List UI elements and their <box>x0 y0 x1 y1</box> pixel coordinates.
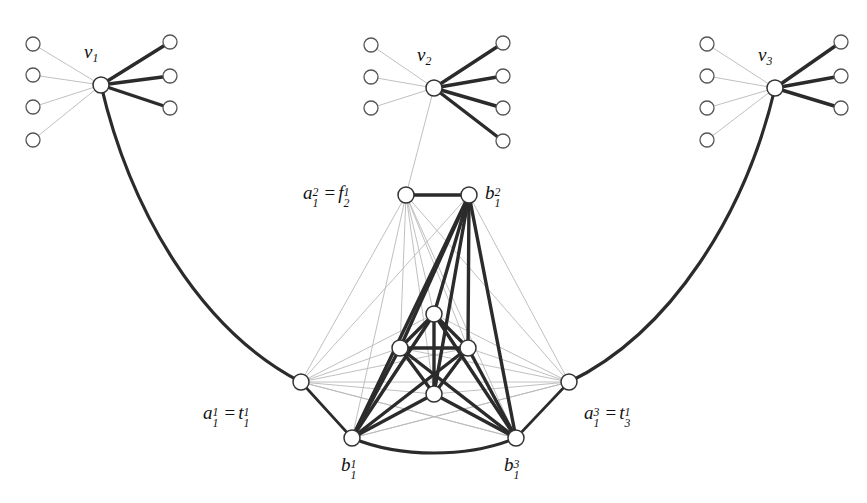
leaf-node[interactable] <box>163 101 177 115</box>
leaf-node[interactable] <box>26 100 40 114</box>
star-edge-light <box>707 88 775 108</box>
star-edge-dark <box>775 88 841 108</box>
arc-v1-a11 <box>101 85 301 382</box>
figure-root: v1 v2 v3 a21=f12 b21 a11=t11 b11 a31=t13… <box>0 0 867 503</box>
edge-v2-a12 <box>406 88 434 195</box>
node-a13[interactable] <box>561 374 577 390</box>
leaf-node[interactable] <box>700 101 714 115</box>
leaf-node[interactable] <box>834 69 848 83</box>
leaf-node[interactable] <box>26 68 40 82</box>
star-edge-dark <box>434 88 503 141</box>
node-c_top[interactable] <box>426 306 442 322</box>
leaf-node[interactable] <box>496 101 510 115</box>
star-edge-light <box>33 85 101 107</box>
leaf-node[interactable] <box>496 134 510 148</box>
star-edge-light <box>33 85 101 140</box>
leaf-node[interactable] <box>163 69 177 83</box>
light-edge-a11-a12 <box>301 195 406 382</box>
label-v3: v3 <box>758 45 772 64</box>
leaf-node[interactable] <box>364 70 378 84</box>
node-v2[interactable] <box>426 80 442 96</box>
node-b13[interactable] <box>508 430 524 446</box>
leaf-node[interactable] <box>163 35 177 49</box>
label-a12-eq-f21: a21=f12 <box>303 183 353 202</box>
node-b12[interactable] <box>461 187 477 203</box>
leaf-node[interactable] <box>26 37 40 51</box>
leaf-node[interactable] <box>700 69 714 83</box>
light-edge-b12-a13 <box>469 195 569 382</box>
node-c_bottom[interactable] <box>426 386 442 402</box>
label-a11-eq-t11: a11=t11 <box>203 403 253 422</box>
leaf-node[interactable] <box>496 36 510 50</box>
star-edge-light <box>707 88 775 140</box>
arc-edges-layer <box>101 85 775 382</box>
edge-a11-b11 <box>301 382 352 438</box>
leaf-node[interactable] <box>834 35 848 49</box>
label-v2: v2 <box>417 45 431 64</box>
star-edge-light <box>371 77 434 88</box>
node-a12[interactable] <box>398 187 414 203</box>
edge-a13-b13 <box>516 382 569 438</box>
node-c_right[interactable] <box>460 340 476 356</box>
edge-b11-b13 <box>352 438 516 453</box>
label-b13: b31 <box>504 455 523 474</box>
star-edge-light <box>33 75 101 85</box>
star-edge-light <box>371 88 434 108</box>
star-edge-dark <box>101 85 170 108</box>
label-b11: b11 <box>341 455 360 474</box>
hub-inner-edge <box>468 195 469 348</box>
graph-canvas <box>0 0 867 503</box>
star-edge-light <box>707 76 775 88</box>
node-b11[interactable] <box>344 430 360 446</box>
light-edges-layer <box>33 44 775 438</box>
leaf-node[interactable] <box>496 69 510 83</box>
label-b12: b21 <box>485 183 504 202</box>
leaf-node[interactable] <box>26 133 40 147</box>
leaf-node[interactable] <box>700 133 714 147</box>
label-a13-eq-t31: a31=t13 <box>584 403 634 422</box>
dark-edges-layer <box>101 42 841 453</box>
node-a11[interactable] <box>293 374 309 390</box>
leaf-node[interactable] <box>700 37 714 51</box>
node-c_left[interactable] <box>392 340 408 356</box>
arc-v3-a13 <box>569 88 775 382</box>
node-v1[interactable] <box>93 77 109 93</box>
node-v3[interactable] <box>767 80 783 96</box>
leaf-node[interactable] <box>834 101 848 115</box>
label-v1: v1 <box>84 42 98 61</box>
leaf-node[interactable] <box>364 38 378 52</box>
leaf-node[interactable] <box>364 101 378 115</box>
